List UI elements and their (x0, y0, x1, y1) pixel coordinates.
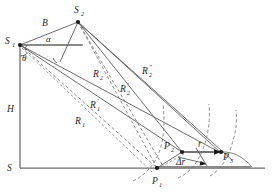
point-marker-p1 (155, 166, 159, 170)
label-P2-subscript: 2 (171, 146, 174, 153)
label-R2-prime: R (119, 84, 126, 94)
label-R2-dprime: R (141, 66, 148, 76)
label-R1-prime: R (89, 100, 96, 110)
geometry-figure: S 1 S 2 B α θ H S R 1 R 1 ′ R 2 R 2 ′ R … (0, 0, 272, 196)
label-R2-prime-subscript: 2 (127, 89, 130, 96)
ray-s1-to-p1-dashed (20, 45, 157, 168)
ray-s2-to-p1-dashed (78, 22, 157, 168)
label-s2-subscript: 2 (81, 10, 84, 17)
label-P2: P (163, 141, 170, 151)
point-marker-p2 (180, 150, 184, 154)
label-R1-prime-mark: ′ (97, 97, 99, 105)
label-angle-theta: θ (22, 53, 27, 63)
angle-arc-s2-foot (53, 58, 57, 63)
ray-s1-lower-dashed (22, 48, 152, 172)
label-P1: P (151, 176, 158, 186)
point-marker-s2 (76, 20, 80, 24)
ray-s2-outer (80, 24, 232, 160)
label-baseline-B: B (42, 18, 48, 28)
label-P3: P (222, 152, 229, 162)
ray-s2-to-p1-dashed-b (78, 22, 163, 166)
label-R2-subscript: 2 (100, 74, 103, 81)
iso-range-arc-through-p1 (133, 104, 164, 181)
label-vector-r: r (198, 139, 202, 149)
label-s2: S (74, 5, 79, 15)
label-surface-S: S (7, 163, 12, 173)
label-P1-subscript: 1 (159, 181, 162, 188)
label-s1: S (5, 36, 10, 46)
label-s1-subscript: 1 (12, 41, 15, 48)
label-R1-prime-subscript: 1 (97, 105, 100, 112)
label-angle-alpha: α (46, 34, 51, 44)
label-R2: R (92, 69, 99, 79)
label-R2-dprime-mark: ″ (149, 63, 152, 71)
label-delta-r: Δr (175, 157, 186, 167)
label-R1-subscript: 1 (82, 121, 85, 128)
ray-s2-to-p2 (78, 22, 182, 152)
label-height-H: H (6, 104, 15, 114)
point-marker-s1 (18, 43, 22, 47)
label-R1: R (74, 116, 81, 126)
label-P3-subscript: 3 (229, 157, 233, 164)
label-R2-dprime-subscript: 2 (149, 71, 152, 78)
